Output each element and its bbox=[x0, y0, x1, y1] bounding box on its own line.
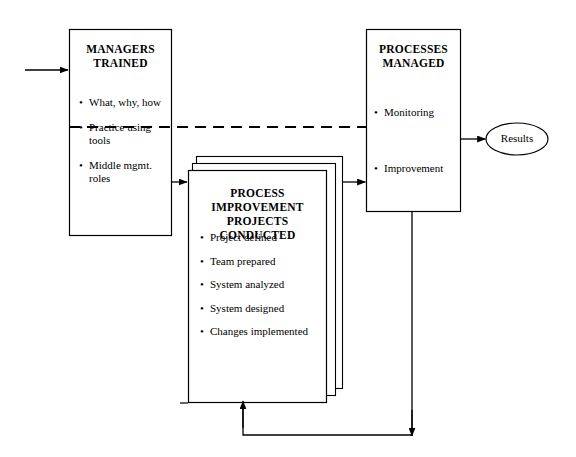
projects-stack-front-sheet bbox=[189, 171, 327, 403]
processes-managed-box bbox=[367, 30, 461, 212]
results-ellipse bbox=[486, 123, 548, 155]
diagram-vector-layer bbox=[0, 0, 576, 457]
diagram-canvas: MANAGERS TRAINED • What, why, how • Prac… bbox=[0, 0, 576, 457]
managers-trained-box bbox=[70, 30, 172, 236]
